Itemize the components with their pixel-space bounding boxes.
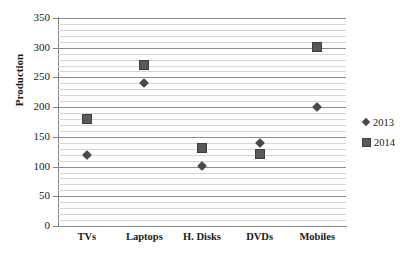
gridline-major [58,226,346,227]
gridline-major [58,48,346,49]
gridline-major [58,77,346,78]
gridline-minor [58,83,346,84]
data-point-2014-laptops [139,60,149,70]
gridline-minor [58,89,346,90]
y-tick-mark [53,48,58,49]
data-point-2014-tvs [82,114,92,124]
diamond-marker-icon [362,118,370,126]
plot-area [58,18,346,226]
y-tick-mark [53,167,58,168]
gridline-minor [58,202,346,203]
gridline-minor [58,71,346,72]
legend-label-2013: 2013 [373,117,394,128]
gridline-minor [58,101,346,102]
y-tick-label: 250 [6,71,50,82]
gridline-minor [58,30,346,31]
gridline-minor [58,95,346,96]
gridline-minor [58,131,346,132]
gridline-minor [58,119,346,120]
gridline-minor [58,66,346,67]
gridline-minor [58,54,346,55]
y-tick-mark [53,77,58,78]
x-tick-label-laptops: Laptops [126,231,163,242]
gridline-minor [58,42,346,43]
legend-item-2014[interactable]: 2014 [362,132,414,152]
data-point-2014-mobiles [312,42,322,52]
y-tick-mark [53,196,58,197]
legend-label-2014: 2014 [374,137,395,148]
production-scatter-chart: Production 050100150200250300350 TVsLapt… [0,0,414,260]
square-marker-icon [362,138,371,147]
y-tick-mark [53,226,58,227]
gridline-major [58,18,346,19]
x-tick-label-tvs: TVs [77,231,96,242]
data-point-2014-h-disks [197,143,207,153]
gridline-major [58,137,346,138]
y-tick-label: 300 [6,42,50,53]
gridline-minor [58,125,346,126]
chart-legend: 2013 2014 [362,112,414,152]
gridline-minor [58,208,346,209]
y-tick-label: 150 [6,131,50,142]
x-tick-label-h-disks: H. Disks [183,231,221,242]
y-tick-label: 50 [6,190,50,201]
x-tick-label-dvds: DVDs [246,231,273,242]
gridline-minor [58,24,346,25]
gridline-minor [58,178,346,179]
y-tick-label: 200 [6,101,50,112]
gridline-minor [58,36,346,37]
gridline-minor [58,214,346,215]
data-point-2014-dvds [255,149,265,159]
gridline-minor [58,220,346,221]
gridline-minor [58,60,346,61]
gridline-major [58,107,346,108]
y-tick-label: 350 [6,12,50,23]
y-tick-label: 0 [6,220,50,231]
gridline-minor [58,173,346,174]
y-tick-label: 100 [6,161,50,172]
gridline-minor [58,184,346,185]
gridline-minor [58,190,346,191]
gridline-minor [58,155,346,156]
gridline-minor [58,113,346,114]
y-tick-mark [53,107,58,108]
legend-item-2013[interactable]: 2013 [362,112,414,132]
x-tick-label-mobiles: Mobiles [299,231,335,242]
y-tick-mark [53,18,58,19]
gridline-major [58,196,346,197]
y-tick-mark [53,137,58,138]
